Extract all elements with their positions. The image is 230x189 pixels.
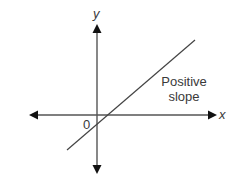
x-axis (29, 111, 217, 120)
x-axis-left-arrow-icon (29, 111, 38, 120)
y-axis (93, 24, 102, 174)
x-axis-right-arrow-icon (208, 111, 217, 120)
y-axis-up-arrow-icon (93, 24, 102, 33)
origin-label: 0 (83, 118, 90, 132)
y-axis-label: y (93, 7, 100, 21)
annotation-line-1: Positive (156, 74, 212, 89)
x-axis-label: x (219, 108, 226, 122)
annotation-line-2: slope (156, 89, 212, 104)
positive-slope-annotation: Positive slope (156, 74, 212, 104)
coordinate-plane-diagram: y x 0 Positive slope (0, 0, 230, 189)
y-axis-down-arrow-icon (93, 165, 102, 174)
